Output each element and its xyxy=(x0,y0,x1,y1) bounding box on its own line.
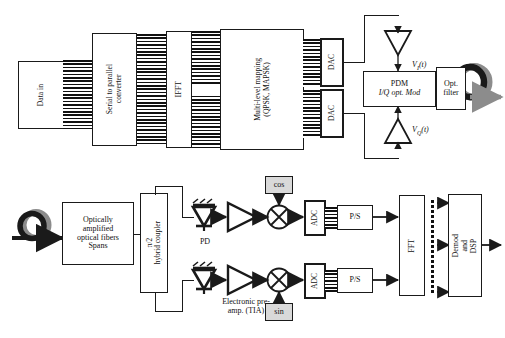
block-dac-i-label: DAC xyxy=(328,54,337,70)
line-coupler-down-bottom xyxy=(155,311,183,312)
block-ps-upper-label: P/S xyxy=(349,213,360,222)
block-pdm-modulator-label-2: I/Q opt. Mod xyxy=(379,89,421,98)
block-lo-cos-label: cos xyxy=(274,181,285,190)
block-adc-upper-label: ADC xyxy=(311,210,320,226)
bus-sp-to-ifft xyxy=(137,34,167,146)
block-dac-i: DAC xyxy=(320,38,344,87)
photodiode-icon-upper xyxy=(193,199,215,231)
label-pd: PD xyxy=(188,238,222,247)
line-amp-q-feed xyxy=(364,158,399,159)
mixer-circle-x-icon-lower xyxy=(268,269,291,292)
line-dac-q-out xyxy=(344,113,365,114)
line-coupler-up-top xyxy=(155,186,183,187)
line-dac-q-riser xyxy=(364,113,365,159)
mixer-circle-x-icon-upper xyxy=(268,206,291,229)
block-multilevel-mapping: Multi-level mapping (QPSK, MAPSK) xyxy=(220,29,304,150)
block-adc-lower: ADC xyxy=(304,263,326,299)
block-ifft: IFFT xyxy=(166,31,192,148)
block-serial-to-parallel: Serial to parallel converter xyxy=(92,33,137,146)
block-pdm-modulator: PDM I/Q opt. Mod xyxy=(363,71,436,107)
block-dac-q-label: DAC xyxy=(328,105,337,121)
block-demod-dsp: Demod and DSP xyxy=(448,194,482,297)
bus-mapping-to-dac-q xyxy=(303,90,321,138)
block-ps-upper: P/S xyxy=(337,205,373,230)
block-multilevel-mapping-label: Multi-level mapping (QPSK, MAPSK) xyxy=(254,58,271,121)
figure-canvas: Data in Serial to parallel converter IFF… xyxy=(0,0,505,338)
block-fft-label: FFT xyxy=(408,239,417,253)
block-demod-dsp-label: Demod and DSP xyxy=(452,234,479,258)
bus-fft-to-dsp xyxy=(431,200,434,294)
block-hybrid-coupler: π/2 hybrid coupler xyxy=(140,193,168,293)
photodiode-icon-lower xyxy=(193,262,215,294)
bus-gap-ifft xyxy=(192,85,220,95)
line-coupler-down-riser xyxy=(155,292,156,312)
bus-data-to-sp xyxy=(63,60,93,129)
block-optical-filter-label: Opt. filter xyxy=(443,80,459,98)
block-adc-lower-label: ADC xyxy=(311,273,320,289)
triangle-amplifier-icon-lower xyxy=(228,266,256,294)
line-coupler-down-rise xyxy=(182,280,183,312)
block-ps-lower: P/S xyxy=(337,268,373,293)
triangle-amplifier-icon-upper xyxy=(228,203,256,231)
block-lo-cos: cos xyxy=(265,176,293,194)
block-ps-lower-label: P/S xyxy=(349,276,360,285)
block-ifft-label: IFFT xyxy=(175,81,184,97)
line-coupler-up-to-pd xyxy=(182,217,194,218)
label-vi-t: (t) xyxy=(419,60,427,69)
line-coupler-up-riser xyxy=(155,186,156,195)
block-fft: FFT xyxy=(399,195,425,296)
block-optical-filter: Opt. filter xyxy=(436,67,466,110)
block-serial-to-parallel-label: Serial to parallel converter xyxy=(106,64,123,114)
block-optical-spans-label: Optically amplified optical fibers Spans xyxy=(77,216,119,252)
line-coupler-down-to-pd xyxy=(182,280,194,281)
line-dac-i-out xyxy=(344,62,365,63)
block-dac-q: DAC xyxy=(320,89,344,138)
line-amp-i-feed xyxy=(364,15,399,16)
fiber-coil-icon-receiver xyxy=(12,212,62,239)
block-adc-upper: ADC xyxy=(304,200,326,236)
bus-mapping-to-dac-i xyxy=(303,39,321,87)
block-data-in-label: Data in xyxy=(37,84,46,106)
line-coupler-up-drop xyxy=(182,186,183,217)
label-vq: VQ(t) xyxy=(404,117,429,145)
line-dac-i-riser xyxy=(364,15,365,63)
block-lo-sin: sin xyxy=(265,303,293,321)
label-vq-t: (t) xyxy=(421,125,429,134)
block-hybrid-coupler-label: π/2 hybrid coupler xyxy=(146,221,163,264)
block-optical-spans: Optically amplified optical fibers Spans xyxy=(62,202,134,265)
block-data-in: Data in xyxy=(18,61,64,129)
block-lo-sin-label: sin xyxy=(274,308,283,317)
